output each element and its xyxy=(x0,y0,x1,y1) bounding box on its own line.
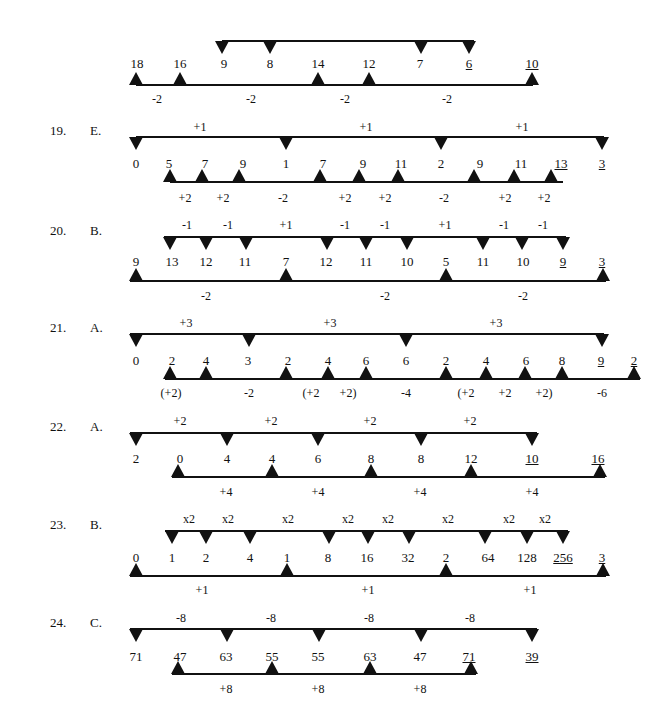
series-number: 47 xyxy=(174,650,187,664)
series-number: 12 xyxy=(363,57,376,71)
series-number: 14 xyxy=(312,57,325,71)
top-operation-label: +3 xyxy=(324,316,337,330)
top-operation-label: -8 xyxy=(266,611,276,625)
bottom-connector-line xyxy=(130,280,606,282)
top-operation-label: x2 xyxy=(442,512,454,526)
triangle-down-icon xyxy=(414,41,428,54)
triangle-up-icon xyxy=(311,72,325,85)
triangle-down-icon xyxy=(361,531,375,544)
series-number: 4 xyxy=(247,551,254,565)
series-number: 1 xyxy=(169,551,176,565)
bottom-operation-label: +4 xyxy=(414,485,427,499)
triangle-up-icon xyxy=(173,72,187,85)
series-number: 8 xyxy=(418,452,425,466)
bottom-operation-label: -6 xyxy=(597,386,607,400)
top-operation-label: +2 xyxy=(265,414,278,428)
bottom-operation-label: +2 xyxy=(179,191,192,205)
series-number: 1 xyxy=(283,157,290,171)
top-operation-label: x2 xyxy=(222,512,234,526)
series-number: 4 xyxy=(224,452,231,466)
triangle-down-icon xyxy=(359,237,373,250)
series-number: 0 xyxy=(133,354,140,368)
series-number: 18 xyxy=(131,57,144,71)
bottom-operation-label: -4 xyxy=(401,386,411,400)
triangle-down-icon xyxy=(199,237,213,250)
series-number: 2 xyxy=(169,354,176,368)
top-operation-label: +1 xyxy=(439,218,452,232)
top-operation-label: -1 xyxy=(538,218,548,232)
series-number: 9 xyxy=(221,57,228,71)
top-connector-line xyxy=(130,432,537,434)
triangle-down-icon xyxy=(478,531,492,544)
bottom-operation-label: +2 xyxy=(538,191,551,205)
answer-number: 3 xyxy=(599,157,606,171)
bottom-operation-label: +2 xyxy=(499,386,512,400)
triangle-down-icon xyxy=(399,334,413,347)
triangle-down-icon xyxy=(165,531,179,544)
series-number: 6 xyxy=(403,354,410,368)
triangle-up-icon xyxy=(362,72,376,85)
top-operation-label: x2 xyxy=(539,512,551,526)
bottom-connector-line xyxy=(172,673,476,675)
series-number: 12 xyxy=(465,452,478,466)
series-number: 7 xyxy=(202,157,209,171)
series-number: 6 xyxy=(363,354,370,368)
series-number: 11 xyxy=(360,255,373,269)
bottom-operation-label: -2 xyxy=(246,92,256,106)
question-number: 24. xyxy=(50,616,66,630)
bottom-operation-label: +2 xyxy=(339,191,352,205)
bottom-operation-label: +2 xyxy=(217,191,230,205)
bottom-operation-label: +1 xyxy=(524,583,537,597)
triangle-down-icon xyxy=(129,334,143,347)
series-number: 1 xyxy=(284,551,291,565)
top-operation-label: x2 xyxy=(282,512,294,526)
answer-number: 13 xyxy=(555,157,568,171)
triangle-up-icon xyxy=(439,268,453,281)
bottom-operation-label: (+2 xyxy=(458,386,475,400)
series-number: 11 xyxy=(395,157,408,171)
triangle-down-icon xyxy=(476,237,490,250)
bottom-connector-line xyxy=(170,181,563,183)
answer-letter: A. xyxy=(90,420,103,434)
series-number: 16 xyxy=(361,551,374,565)
bottom-operation-label: +2) xyxy=(340,386,357,400)
bottom-operation-label: +8 xyxy=(312,682,325,696)
series-number: 2 xyxy=(438,157,445,171)
series-number: 2 xyxy=(443,551,450,565)
series-number: 10 xyxy=(517,255,530,269)
series-number: 10 xyxy=(401,255,414,269)
question-number: 20. xyxy=(50,224,66,238)
top-operation-label: x2 xyxy=(183,512,195,526)
answer-number: 39 xyxy=(526,650,539,664)
answer-number: 71 xyxy=(463,650,476,664)
bottom-connector-line xyxy=(136,84,533,86)
triangle-down-icon xyxy=(595,137,609,150)
bottom-operation-label: (+2 xyxy=(303,386,320,400)
triangle-down-icon xyxy=(414,629,428,642)
triangle-down-icon xyxy=(400,237,414,250)
top-operation-label: x2 xyxy=(503,512,515,526)
answer-number: 9 xyxy=(560,255,567,269)
answer-number: 9 xyxy=(598,354,605,368)
series-number: 2 xyxy=(133,452,140,466)
series-number: 2 xyxy=(285,354,292,368)
series-number: 7 xyxy=(283,255,290,269)
top-operation-label: -1 xyxy=(340,218,350,232)
answer-number: 6 xyxy=(466,57,473,71)
series-number: 2 xyxy=(203,551,210,565)
triangle-down-icon xyxy=(239,237,253,250)
bottom-operation-label: -2 xyxy=(244,386,254,400)
bottom-operation-label: -2 xyxy=(442,92,452,106)
series-number: 4 xyxy=(483,354,490,368)
answer-number: 3 xyxy=(599,551,606,565)
top-operation-label: +1 xyxy=(194,120,207,134)
triangle-down-icon xyxy=(402,531,416,544)
series-number: 8 xyxy=(267,57,274,71)
series-number: 32 xyxy=(402,551,415,565)
top-operation-label: -8 xyxy=(465,611,475,625)
bottom-operation-label: +1 xyxy=(362,583,375,597)
bottom-operation-label: -2 xyxy=(380,289,390,303)
series-number: 0 xyxy=(177,452,184,466)
series-number: 11 xyxy=(477,255,490,269)
top-operation-label: x2 xyxy=(342,512,354,526)
